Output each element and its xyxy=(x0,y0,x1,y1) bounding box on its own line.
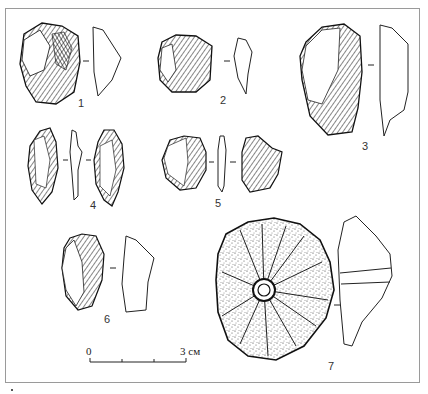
label-artifact-1: 1 xyxy=(78,98,84,109)
label-artifact-3: 3 xyxy=(362,141,368,152)
scale-end-label: 3 см xyxy=(180,346,200,357)
artifact-drawings xyxy=(0,0,428,394)
label-artifact-6: 6 xyxy=(104,314,110,325)
corner-mark xyxy=(11,389,13,391)
artifact-5 xyxy=(162,136,282,192)
scale-start-label: 0 xyxy=(86,346,92,357)
label-artifact-7: 7 xyxy=(328,361,334,372)
label-artifact-2: 2 xyxy=(220,95,226,106)
artifact-4 xyxy=(28,128,124,206)
label-artifact-5: 5 xyxy=(215,198,221,209)
artifact-1 xyxy=(20,23,121,104)
scale-bar xyxy=(90,358,186,362)
artifact-3 xyxy=(300,24,408,136)
artifact-7 xyxy=(216,216,392,360)
artifact-2 xyxy=(158,35,252,94)
label-artifact-4: 4 xyxy=(90,200,96,211)
artifact-6 xyxy=(62,234,154,312)
